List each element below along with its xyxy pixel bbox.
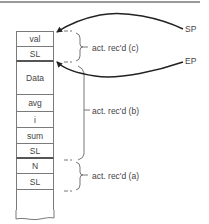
ep-pointer-arrow (57, 62, 183, 77)
bracket-record-b (78, 66, 90, 160)
record-a-label: act. rec'd (a) (92, 171, 139, 181)
sp-pointer-arrow (57, 13, 183, 32)
stack-torn-bottom (16, 210, 54, 220)
bracket-record-c (64, 31, 88, 62)
record-c-label: act. rec'd (c) (92, 43, 139, 53)
sp-label: SP (185, 24, 196, 34)
ep-label: EP (185, 56, 196, 66)
record-b-label: act. rec'd (b) (92, 106, 139, 116)
bracket-record-a (64, 160, 88, 191)
